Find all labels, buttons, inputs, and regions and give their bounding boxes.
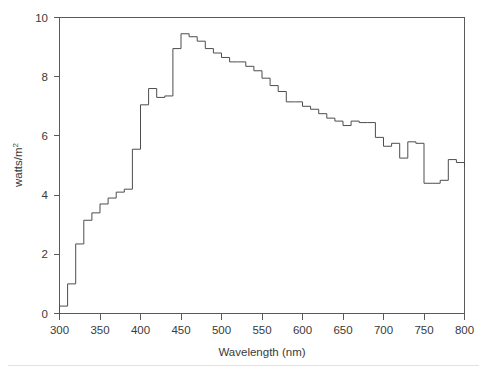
x-tick-label-550: 550 — [252, 324, 271, 336]
y-axis-title: watts/m2 — [11, 142, 24, 188]
x-tick-label-600: 600 — [293, 324, 312, 336]
x-tick-label-700: 700 — [374, 324, 393, 336]
y-tick-label-8: 8 — [42, 71, 48, 83]
y-axis-title-superscript: 2 — [11, 142, 20, 147]
x-tick-label-750: 750 — [414, 324, 433, 336]
y-tick-label-4: 4 — [42, 189, 49, 201]
y-tick-label-2: 2 — [42, 248, 48, 260]
y-axis-title-base: watts/m — [12, 147, 24, 188]
page-divider-rule — [8, 365, 479, 366]
x-tick-label-500: 500 — [212, 324, 231, 336]
x-tick-label-800: 800 — [455, 324, 474, 336]
y-tick-label-0: 0 — [42, 308, 48, 320]
x-tick-label-450: 450 — [171, 324, 190, 336]
chart-background — [0, 0, 487, 370]
spectral-irradiance-figure: 0 2 4 6 8 10 300 350 400 450 500 550 600… — [0, 0, 487, 370]
x-tick-label-350: 350 — [90, 324, 109, 336]
x-axis-title: Wavelength (nm) — [218, 346, 305, 358]
chart-canvas: 0 2 4 6 8 10 300 350 400 450 500 550 600… — [0, 0, 487, 370]
x-tick-label-400: 400 — [131, 324, 150, 336]
y-tick-label-6: 6 — [42, 130, 48, 142]
y-tick-label-10: 10 — [35, 12, 48, 24]
x-tick-label-650: 650 — [333, 324, 352, 336]
x-tick-label-300: 300 — [50, 324, 69, 336]
svg-text:watts/m2: watts/m2 — [11, 142, 24, 188]
